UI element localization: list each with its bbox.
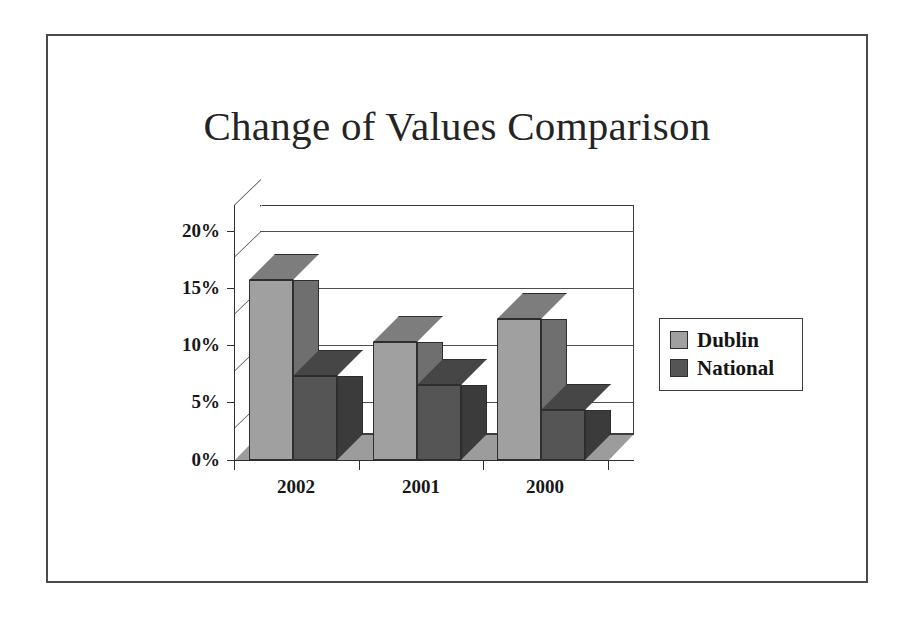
ytick-mark-20 [227, 231, 235, 232]
category-axis-line [234, 460, 634, 461]
legend-label-national: National [697, 356, 774, 381]
bar-front-face [293, 376, 337, 460]
slide-canvas: Change of Values Comparison [46, 34, 868, 583]
ytick-label-5: 5% [148, 391, 220, 413]
value-axis-line [234, 205, 235, 461]
legend-swatch-icon [670, 359, 688, 377]
bar-national-2000[interactable] [541, 384, 585, 460]
ytick-label-0: 0% [148, 449, 220, 471]
bar-chart: 20% 15% 10% 5% 0% 2002 2001 2000 Dublin … [48, 36, 870, 585]
xtick-label-2002: 2002 [241, 476, 351, 498]
ytick-label-10: 10% [148, 334, 220, 356]
bar-front-face [497, 319, 541, 460]
xtick-label-2000: 2000 [490, 476, 600, 498]
wall-top-edge [234, 179, 261, 206]
legend-label-dublin: Dublin [697, 328, 759, 353]
bar-front-face [417, 385, 461, 460]
legend-item-national[interactable]: National [670, 354, 792, 382]
chart-legend: Dublin National [659, 318, 803, 391]
bar-front-face [541, 410, 585, 460]
bar-national-2002[interactable] [293, 350, 337, 460]
bar-dublin-2002[interactable] [249, 254, 293, 460]
xtick-mark-start [234, 461, 235, 470]
ytick-label-20: 20% [148, 220, 220, 242]
bar-front-face [373, 342, 417, 460]
gridline-20 [260, 231, 634, 232]
ytick-mark-10 [227, 345, 235, 346]
bar-dublin-2000[interactable] [497, 293, 541, 460]
ytick-mark-15 [227, 288, 235, 289]
xtick-label-2001: 2001 [366, 476, 476, 498]
ytick-mark-5 [227, 402, 235, 403]
xtick-mark-end [608, 461, 609, 470]
ytick-label-15: 15% [148, 277, 220, 299]
xtick-mark-1 [359, 461, 360, 470]
xtick-mark-2 [483, 461, 484, 470]
bar-dublin-2001[interactable] [373, 316, 417, 460]
bar-national-2001[interactable] [417, 359, 461, 460]
legend-item-dublin[interactable]: Dublin [670, 326, 792, 354]
legend-swatch-icon [670, 331, 688, 349]
bar-front-face [249, 280, 293, 460]
